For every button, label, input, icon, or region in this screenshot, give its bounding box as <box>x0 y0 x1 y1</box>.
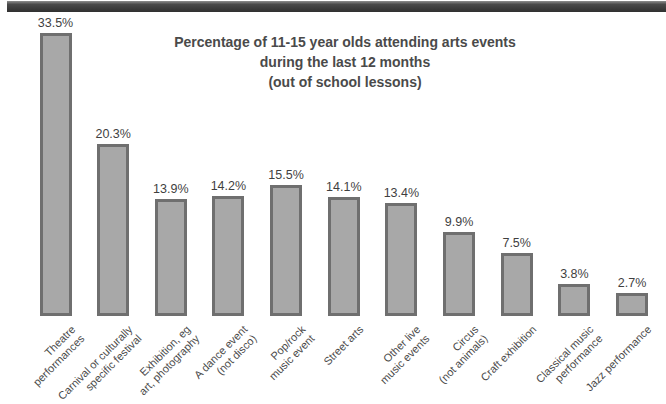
bar <box>97 144 129 316</box>
bar-value-label: 2.7% <box>600 276 664 290</box>
bar <box>443 232 475 316</box>
bar <box>212 196 244 316</box>
bar-value-label: 33.5% <box>24 16 88 30</box>
bar <box>155 199 187 316</box>
bar-value-label: 14.1% <box>312 180 376 194</box>
bar-value-label: 13.9% <box>139 182 203 196</box>
bar-value-label: 3.8% <box>542 267 606 281</box>
bar <box>385 203 417 316</box>
bar-value-label: 7.5% <box>485 236 549 250</box>
bar-value-label: 15.5% <box>254 168 318 182</box>
bar-value-label: 14.2% <box>196 179 260 193</box>
bar-value-label: 20.3% <box>81 127 145 141</box>
bar <box>270 185 302 316</box>
bar <box>501 253 533 316</box>
bar-chart-plot: 33.5%Theatreperformances20.3%Carnival or… <box>0 0 666 404</box>
bar <box>616 293 648 316</box>
bar-value-label: 9.9% <box>427 215 491 229</box>
bar <box>40 33 72 316</box>
bar-value-label: 13.4% <box>369 186 433 200</box>
bar <box>558 284 590 316</box>
bar <box>328 197 360 316</box>
